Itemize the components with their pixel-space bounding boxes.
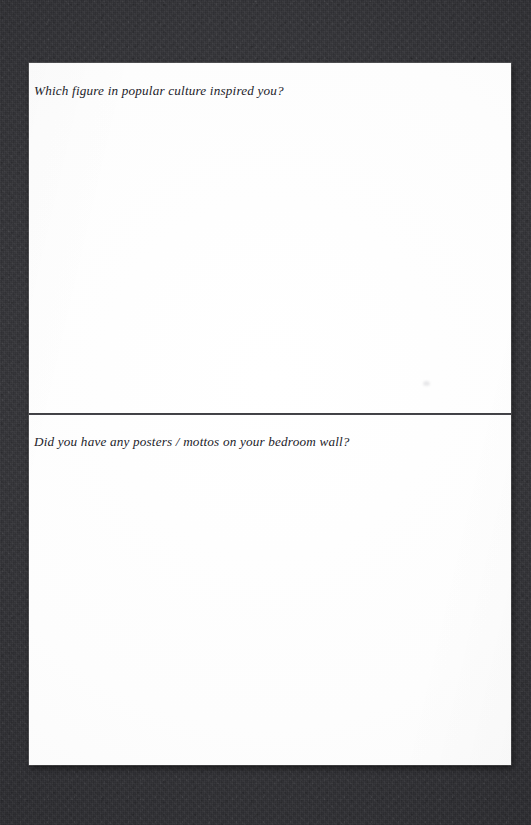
question-section-2: Did you have any posters / mottos on you…	[29, 416, 511, 765]
journal-page: Which figure in popular culture inspired…	[29, 63, 511, 765]
question-section-1: Which figure in popular culture inspired…	[29, 63, 511, 414]
section-divider	[29, 413, 511, 415]
question-prompt-2: Did you have any posters / mottos on you…	[34, 433, 350, 451]
answer-area-2[interactable]	[34, 458, 505, 757]
question-prompt-1: Which figure in popular culture inspired…	[34, 82, 284, 100]
answer-area-1[interactable]	[34, 107, 505, 406]
